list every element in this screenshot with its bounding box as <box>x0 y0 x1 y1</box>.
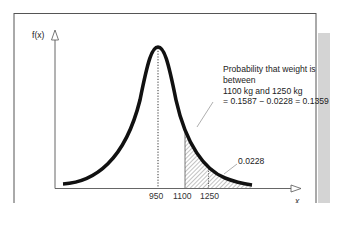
tail-leader-line <box>224 164 237 174</box>
tick-1100: 1100 <box>173 191 191 201</box>
x-axis-arrow-icon <box>291 185 301 192</box>
annotation-line-3: 1100 kg and 1250 kg <box>223 86 329 97</box>
y-axis-label: f(x) <box>32 30 44 41</box>
x-axis-label: x <box>295 196 299 203</box>
y-axis-arrow-icon <box>52 30 59 40</box>
annotation-line-2: between <box>223 75 329 86</box>
tick-1250: 1250 <box>200 191 219 201</box>
tick-950: 950 <box>149 191 163 201</box>
frame-shadow <box>318 33 330 203</box>
annotation-line-4: = 0.1587 − 0.0228 = 0.1359 <box>223 96 329 107</box>
annotation-line-1: Probability that weight is <box>223 64 329 75</box>
tail-probability-label: 0.0228 <box>238 156 264 167</box>
probability-annotation: Probability that weight is between 1100 … <box>223 64 329 107</box>
annotation-leader-line <box>197 102 213 127</box>
